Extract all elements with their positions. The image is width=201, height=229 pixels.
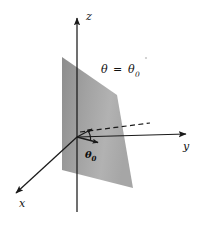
figure-canvas: z y x θ = θ 0 θ 0 bbox=[0, 0, 201, 229]
x-axis-label: x bbox=[19, 197, 26, 210]
theta-angle-label-subscript: 0 bbox=[92, 154, 97, 163]
print-speck bbox=[145, 57, 147, 59]
plane-equation-subscript: 0 bbox=[135, 70, 140, 79]
y-axis-label: y bbox=[182, 140, 190, 153]
plane-equation-equals: = bbox=[113, 63, 122, 76]
coordinate-system-figure: z y x θ = θ 0 θ 0 bbox=[0, 0, 201, 229]
theta-plane-surface bbox=[62, 57, 133, 188]
plane-equation-theta-zero: θ bbox=[128, 63, 135, 76]
z-axis-label: z bbox=[85, 10, 92, 23]
plane-equation-theta: θ bbox=[101, 63, 108, 76]
